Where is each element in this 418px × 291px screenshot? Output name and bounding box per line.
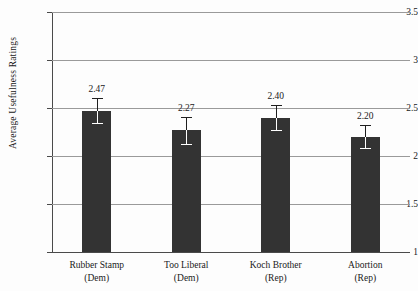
error-bar-cap-bottom	[271, 130, 282, 131]
error-bar-stem-upper	[186, 117, 187, 130]
x-tick-label: Koch Brother(Rep)	[250, 259, 302, 284]
x-tick-label-line2: (Rep)	[250, 272, 302, 285]
error-bar-cap-bottom	[360, 148, 371, 149]
bars-layer: 2.472.272.402.20	[52, 12, 410, 252]
bar	[172, 130, 201, 252]
x-tick-label: Abortion(Rep)	[348, 259, 382, 284]
error-bar-cap-top	[92, 98, 103, 99]
bar-value-label: 2.27	[178, 103, 195, 113]
x-tick-label: Rubber Stamp(Dem)	[69, 259, 124, 284]
bar-value-label: 2.47	[88, 84, 105, 94]
x-tick-label-line1: Abortion	[348, 260, 382, 270]
error-bar-cap-top	[181, 117, 192, 118]
x-tick-label: Too Liberal(Dem)	[164, 259, 208, 284]
gridline	[52, 252, 410, 253]
error-bar-cap-top	[271, 105, 282, 106]
bar	[82, 111, 111, 252]
bar	[261, 118, 290, 252]
error-bar-cap-bottom	[92, 123, 103, 124]
x-tick-label-line2: (Dem)	[69, 272, 124, 285]
y-axis-title: Average Usefulness Ratings	[8, 8, 18, 178]
error-bar-stem-upper	[97, 98, 98, 110]
error-bar-stem-upper	[365, 125, 366, 137]
x-tick-label-line1: Koch Brother	[250, 260, 302, 270]
x-tick-label-line2: (Dem)	[164, 272, 208, 285]
error-bar-cap-bottom	[181, 144, 192, 145]
error-bar-cap-top	[360, 125, 371, 126]
error-bar-stem-upper	[276, 105, 277, 117]
bar-chart: Average Usefulness Ratings 11.522.533.5 …	[0, 0, 418, 291]
bar-value-label: 2.20	[357, 111, 374, 121]
x-tick-label-line2: (Rep)	[348, 272, 382, 285]
bar	[351, 137, 380, 252]
x-tick-label-line1: Rubber Stamp	[69, 260, 124, 270]
x-tick-label-line1: Too Liberal	[164, 260, 208, 270]
bar-value-label: 2.40	[267, 91, 284, 101]
